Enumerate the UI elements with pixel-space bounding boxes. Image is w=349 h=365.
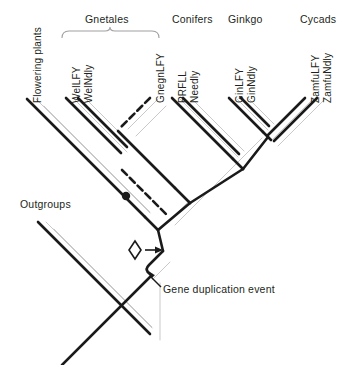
tip-label-flowering-plants: Flowering plants [32, 27, 43, 103]
annotation-outgroups: Outgroups [20, 198, 71, 210]
gnetales-bracket [62, 27, 159, 38]
branch-gnetales-stem [118, 131, 175, 188]
tree-branch-layer [0, 0, 349, 365]
tip-label-prfll: PRFLL [177, 71, 188, 103]
figure-canvas: Gnetales Conifers Ginkgo Cycads Flowerin… [0, 0, 349, 365]
branch-gnetales-to-backbone [175, 188, 190, 203]
branch-welndly [78, 98, 127, 147]
branch-backbone-to-dup [158, 230, 163, 251]
tip-label-gnegnlfy: GnegnLFY [155, 53, 166, 103]
branch-root-lower [62, 275, 152, 365]
group-label-gnetales: Gnetales [85, 13, 129, 25]
group-label-conifers: Conifers [172, 13, 213, 25]
tip-label-zamfulfy: ZamfuLFY [310, 55, 321, 103]
branch-needly [183, 98, 239, 154]
black-node-dot [122, 192, 130, 200]
branch-outgroups [38, 222, 150, 334]
tip-label-zamfundly: ZamfuNdly [322, 53, 333, 103]
branch-angiosperm-stem [145, 217, 158, 230]
branch-zamfundly [274, 98, 317, 141]
branch-backbone-lower [158, 203, 190, 230]
diamond-marker [129, 241, 141, 259]
group-label-cycads: Cycads [300, 13, 336, 25]
branch-gnegnlfy [120, 98, 150, 128]
tip-label-welndly: WelNdly [83, 65, 94, 103]
branch-backbone-mid [190, 169, 243, 203]
tip-label-needly: Needly [189, 71, 200, 103]
branch-backbone-upper [243, 137, 268, 169]
tip-label-ginndly: GinNdly [246, 66, 257, 103]
branch-conifer-node [233, 159, 243, 169]
tip-label-wellfy: WelLFY [71, 66, 82, 103]
group-label-ginkgo: Ginkgo [228, 13, 262, 25]
branch-prfll [172, 98, 233, 159]
annotation-gene-duplication: Gene duplication event [163, 283, 275, 295]
branch-root-to-dup [147, 251, 163, 275]
tip-label-ginlfy: GinLFY [234, 68, 245, 103]
